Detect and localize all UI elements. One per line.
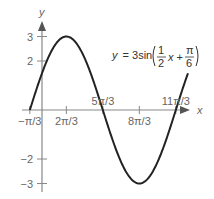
left-paren bbox=[153, 46, 155, 66]
y-axis-arrow-icon bbox=[38, 21, 46, 31]
y-tick-label: 2 bbox=[27, 55, 33, 67]
frac1-num: 1 bbox=[158, 44, 164, 56]
frac2-num: π bbox=[186, 44, 194, 56]
x-tick-label: 5π/3 bbox=[91, 95, 114, 107]
right-paren bbox=[196, 46, 198, 66]
equation-var: x + bbox=[167, 51, 183, 63]
y-tick-label: −3 bbox=[20, 178, 33, 190]
x-axis-arrow-icon bbox=[180, 106, 190, 114]
frac1-den: 2 bbox=[158, 57, 164, 69]
x-tick-label: 11π/3 bbox=[162, 95, 190, 107]
x-tick-label: 8π/3 bbox=[128, 115, 151, 127]
equation-label: y = 3sin 1 2 x + π 6 bbox=[111, 44, 198, 69]
equation-lhs: y = 3sin bbox=[111, 49, 152, 61]
y-tick-label: −2 bbox=[20, 153, 33, 165]
frac2-den: 6 bbox=[186, 57, 192, 69]
x-tick-label: 2π/3 bbox=[55, 115, 78, 127]
x-tick-label: −π/3 bbox=[18, 115, 41, 127]
x-axis-label: x bbox=[196, 104, 203, 116]
y-axis-label: y bbox=[38, 6, 46, 18]
sine-chart: xy−π/32π/35π/38π/311π/332−2−3 y = 3sin 1… bbox=[0, 0, 214, 199]
y-tick-label: 3 bbox=[27, 31, 33, 43]
